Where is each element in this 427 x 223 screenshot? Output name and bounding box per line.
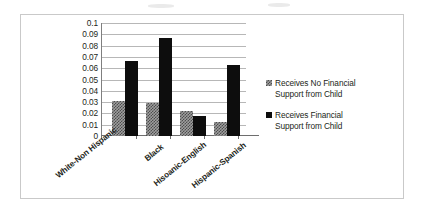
x-axis-category-label: Hispanic-Spanish	[190, 141, 248, 190]
legend-label-line-2: Support from Child	[275, 89, 342, 99]
bar-no-financial-support[interactable]	[146, 103, 159, 136]
bar-financial-support[interactable]	[125, 61, 138, 136]
legend-item-no-financial-support[interactable]: Receives No Financial Support from Child	[266, 78, 392, 99]
y-axis-tick-label: 0.04	[82, 86, 98, 95]
y-axis-tick-label: 0.01	[82, 120, 98, 129]
legend-label-line-1: Receives No Financial	[275, 78, 355, 88]
y-axis-tick-labels: 0.1 0.09 0.08 0.07 0.06 0.05 0.04 0.03 0…	[65, 23, 98, 136]
legend-label-line-1: Receives Financial	[275, 110, 343, 120]
x-axis-tick	[238, 136, 239, 139]
checkered-gray-swatch-icon	[266, 80, 272, 86]
y-axis-tick-label: 0.06	[82, 64, 98, 73]
bar-financial-support[interactable]	[227, 65, 240, 136]
bar-financial-support[interactable]	[159, 38, 172, 136]
x-axis-category-label: Hisoanic-English	[152, 140, 208, 188]
legend-label-line-2: Support from Child	[275, 121, 342, 131]
bar-financial-support[interactable]	[193, 116, 206, 136]
legend-item-label: Receives No Financial Support from Child	[275, 78, 355, 99]
y-axis-tick-label: 0.03	[82, 98, 98, 107]
y-axis-tick-label: 0.02	[82, 109, 98, 118]
scan-artifact	[148, 4, 174, 8]
x-axis-tick	[136, 136, 137, 139]
x-axis-tick	[204, 136, 205, 139]
scan-artifact	[268, 3, 290, 7]
y-axis-tick-label: 0.09	[82, 30, 98, 39]
bar-no-financial-support[interactable]	[214, 122, 227, 136]
legend-item-financial-support[interactable]: Receives Financial Support from Child	[266, 110, 392, 131]
y-axis-tick-label: 0.08	[82, 41, 98, 50]
bars-layer	[101, 23, 246, 136]
x-axis-tick	[101, 136, 102, 139]
plot-area	[101, 23, 246, 136]
chart-figure-frame: Predicted Probability of Providing Grand…	[20, 14, 404, 199]
solid-black-swatch-icon	[266, 112, 272, 118]
bar-no-financial-support[interactable]	[112, 101, 125, 136]
bar-no-financial-support[interactable]	[180, 111, 193, 136]
chart-legend: Receives No Financial Support from Child…	[266, 78, 392, 142]
x-axis-category-label: Black	[143, 143, 165, 163]
y-axis-tick-label: 0.1	[87, 19, 98, 28]
y-axis-tick-label: 0.05	[82, 75, 98, 84]
legend-item-label: Receives Financial Support from Child	[275, 110, 343, 131]
x-axis-tick	[170, 136, 171, 139]
y-axis-tick-label: 0	[93, 132, 98, 141]
y-axis-tick-label: 0.07	[82, 52, 98, 61]
